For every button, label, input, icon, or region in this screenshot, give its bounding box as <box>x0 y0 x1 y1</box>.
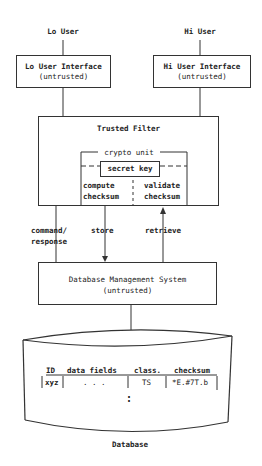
col-data-fields: data fields <box>67 366 117 375</box>
col-id: ID <box>46 366 55 375</box>
validate-line1: validate <box>144 181 180 190</box>
trusted-filter-title: Trusted Filter <box>38 124 219 133</box>
col-class: class. <box>134 366 161 375</box>
lo-interface-title: Lo User Interface <box>17 62 110 71</box>
cell-id: xyz <box>45 378 59 387</box>
hi-user-label: Hi User <box>180 27 220 36</box>
crypto-unit-label: crypto unit <box>98 148 160 157</box>
hi-interface-title: Hi User Interface <box>154 62 250 71</box>
compute-line1: compute <box>83 181 115 190</box>
validate-line2: checksum <box>144 192 180 201</box>
dbms-subtitle: (untrusted) <box>39 286 216 295</box>
cell-class: TS <box>142 378 151 387</box>
secret-key-label: secret key <box>100 164 160 173</box>
cell-data-fields: . . . <box>83 378 106 387</box>
lo-user-interface-box: Lo User Interface (untrusted) <box>16 55 111 88</box>
dbms-title: Database Management System <box>39 275 216 284</box>
command-label-1: command/ <box>31 226 67 235</box>
command-label-2: response <box>31 237 67 246</box>
dbms-box: Database Management System (untrusted) <box>38 262 217 305</box>
store-label: store <box>91 226 114 235</box>
cell-checksum: *E.#7T.b <box>172 378 208 387</box>
col-checksum: checksum <box>174 366 210 375</box>
lo-interface-subtitle: (untrusted) <box>17 72 110 81</box>
hi-user-interface-box: Hi User Interface (untrusted) <box>153 55 251 88</box>
hi-interface-subtitle: (untrusted) <box>154 72 250 81</box>
compute-line2: checksum <box>83 192 119 201</box>
database-label: Database <box>100 440 160 449</box>
lo-user-label: Lo User <box>43 27 83 36</box>
retrieve-label: retrieve <box>145 226 181 235</box>
row-continuation: : <box>126 394 132 403</box>
